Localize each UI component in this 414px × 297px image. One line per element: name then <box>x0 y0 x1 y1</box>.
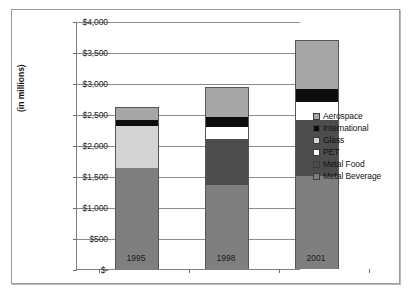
bar-segment-aerospace[interactable] <box>295 40 339 90</box>
legend-label: Metal Food <box>323 159 365 169</box>
legend-item-pet[interactable]: PET <box>313 146 391 158</box>
x-axis-tick <box>279 269 280 273</box>
bar-1998[interactable] <box>205 87 249 269</box>
bar-segment-aerospace[interactable] <box>115 107 159 120</box>
legend-label: Aerospace <box>323 111 363 121</box>
gridline <box>77 22 300 23</box>
legend-item-metal-food[interactable]: Metal Food <box>313 158 391 170</box>
x-axis-tick-label: 2001 <box>281 253 351 263</box>
legend-swatch-icon <box>313 125 320 132</box>
bar-segment-glass[interactable] <box>115 126 159 168</box>
bar-1995[interactable] <box>115 107 159 269</box>
legend-item-international[interactable]: International <box>313 122 391 134</box>
legend-item-aerospace[interactable]: Aerospace <box>313 110 391 122</box>
legend-label: PET <box>323 147 339 157</box>
gridline <box>77 115 300 116</box>
x-axis-tick <box>369 269 370 273</box>
bar-segment-pet[interactable] <box>205 127 249 139</box>
legend-item-glass[interactable]: Glass <box>313 134 391 146</box>
y-axis-tick-label: $1,000 <box>48 203 108 213</box>
x-axis-tick <box>189 269 190 273</box>
y-axis-tick-label: $1,500 <box>48 172 108 182</box>
chart-screenshot: (in millions) $4,000$3,500$3,000$2,500$2… <box>0 0 414 297</box>
legend-swatch-icon <box>313 161 320 168</box>
legend-swatch-icon <box>313 113 320 120</box>
gridline <box>77 208 300 209</box>
legend-swatch-icon <box>313 149 320 156</box>
gridline <box>77 177 300 178</box>
gridline <box>77 239 300 240</box>
y-axis-tick-label: $2,500 <box>48 110 108 120</box>
legend-swatch-icon <box>313 173 320 180</box>
y-axis-tick-label: $4,000 <box>48 17 108 27</box>
gridline <box>77 84 300 85</box>
chart-legend: AerospaceInternationalGlassPETMetal Food… <box>313 110 391 182</box>
x-axis-tick-label: 1998 <box>191 253 261 263</box>
y-axis-tick-label: $- <box>48 265 108 275</box>
bar-segment-international[interactable] <box>295 89 339 101</box>
bar-segment-aerospace[interactable] <box>205 87 249 117</box>
gridline <box>77 53 300 54</box>
plot-area <box>76 22 300 270</box>
y-axis-tick-label: $3,000 <box>48 79 108 89</box>
x-axis-tick-label: 1995 <box>101 253 171 263</box>
y-axis-tick-label: $2,000 <box>48 141 108 151</box>
y-axis-title: (in millions) <box>16 64 26 112</box>
legend-label: Metal Beverage <box>323 171 381 181</box>
legend-swatch-icon <box>313 137 320 144</box>
legend-label: International <box>323 123 368 133</box>
y-axis-tick-label: $3,500 <box>48 48 108 58</box>
y-axis-tick-label: $500 <box>48 234 108 244</box>
legend-label: Glass <box>323 135 344 145</box>
bar-segment-international[interactable] <box>205 117 249 127</box>
bar-segment-metal-food[interactable] <box>205 139 249 185</box>
gridline <box>77 146 300 147</box>
legend-item-metal-beverage[interactable]: Metal Beverage <box>313 170 391 182</box>
